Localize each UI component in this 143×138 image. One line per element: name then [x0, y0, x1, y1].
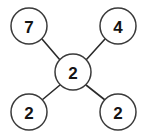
node-top-left[interactable]: 7 — [11, 8, 47, 44]
node-label-bottom-left: 2 — [24, 104, 33, 123]
diagram-canvas: 7 4 2 2 2 — [0, 0, 143, 138]
edge-center-bottom-right — [86, 85, 105, 100]
node-bottom-right[interactable]: 2 — [100, 94, 136, 130]
node-label-top-right: 4 — [113, 18, 123, 37]
node-bottom-left[interactable]: 2 — [11, 94, 47, 130]
edge-center-top-left — [42, 39, 60, 60]
node-center[interactable]: 2 — [55, 54, 91, 90]
node-label-bottom-right: 2 — [113, 104, 122, 123]
node-label-center: 2 — [68, 64, 77, 83]
edge-center-top-right — [86, 39, 105, 60]
node-label-top-left: 7 — [24, 18, 33, 37]
node-top-right[interactable]: 4 — [100, 8, 136, 44]
graph-svg: 7 4 2 2 2 — [0, 0, 143, 138]
edge-center-bottom-left — [42, 85, 60, 100]
